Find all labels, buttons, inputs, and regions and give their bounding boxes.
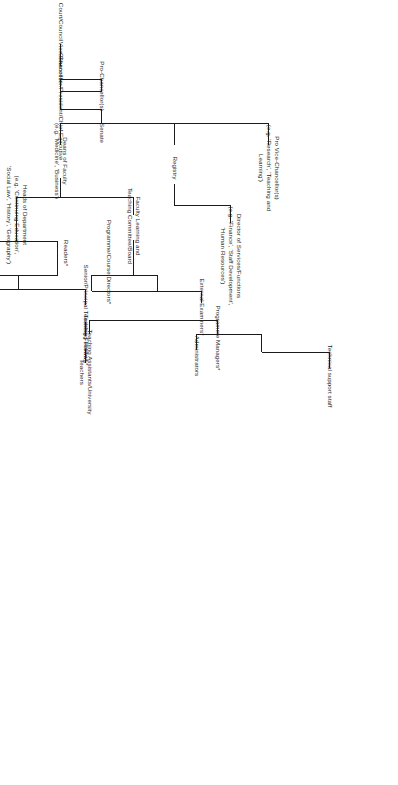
node-faculty-learning-committee: Faculty Learning and Teaching Committee/… — [126, 188, 142, 264]
connector-teaching-ladder-spine — [19, 289, 86, 290]
node-heads-of-department: Heads of Department (e.g. 'Continuing Ed… — [5, 166, 29, 264]
org-chart-rotated-group: Court/Council Chancellor Pro-Chancellor(… — [0, 0, 398, 785]
connector-registry-stub — [174, 184, 175, 206]
node-senate: Senate — [98, 123, 106, 143]
node-teaching-assistants: Teaching Assistants/University Teachers — [78, 329, 94, 414]
node-technical-support-staff: Technical support staff — [326, 345, 334, 408]
connector-pcd-top-arm — [157, 275, 158, 291]
node-programme-course-directors: Programme/Course Directors* — [105, 220, 113, 305]
org-chart-canvas: Court/Council Chancellor Pro-Chancellor(… — [0, 0, 398, 785]
connector-deans-spine — [17, 197, 134, 198]
node-external-examiners: External Examiners* — [198, 278, 206, 335]
node-registry: Registry — [171, 156, 179, 179]
connector-readers-riser — [0, 275, 58, 276]
node-administrators: Administrators — [193, 336, 201, 376]
node-readers: Readers* — [62, 240, 70, 266]
connector-chancellor-spine — [60, 79, 102, 80]
node-pro-vice-chancellors: Pro Vice-Chancellor(s) (e.g. 'Research',… — [257, 125, 281, 211]
connector-readers-arm — [57, 241, 58, 257]
node-pro-chancellors: Pro-Chancellor(s) — [98, 61, 106, 111]
node-programme-managers: Programme Managers* — [214, 305, 222, 370]
connector-vc-to-senate — [60, 109, 102, 110]
connector-vc-main-spine — [60, 123, 269, 124]
connector-lecturer-ladder-spine — [0, 289, 19, 290]
connector-vc-to-registry — [174, 123, 175, 145]
connector-senate-stub — [101, 109, 102, 123]
connector-technical-riser — [262, 352, 330, 353]
connector-prochancellor-spine — [60, 91, 102, 92]
connector-pm-children-spine — [197, 334, 262, 335]
connector-pcd-bottom-arm — [91, 275, 92, 291]
connector-ladder-stub — [18, 275, 19, 289]
connector-pcd-bracket — [92, 275, 158, 276]
node-director-of-services: Director of Services/Functions (e.g. 'Fi… — [219, 206, 243, 305]
connector-pm-to-technical — [261, 334, 262, 352]
node-court-council: Court/Council — [57, 3, 65, 41]
node-deans-of-faculty: Deans of Faculty (e.g. 'Medicine', 'Busi… — [53, 123, 69, 199]
connector-readers-riser-top — [57, 257, 58, 275]
connector-pcd-stub — [133, 262, 134, 276]
